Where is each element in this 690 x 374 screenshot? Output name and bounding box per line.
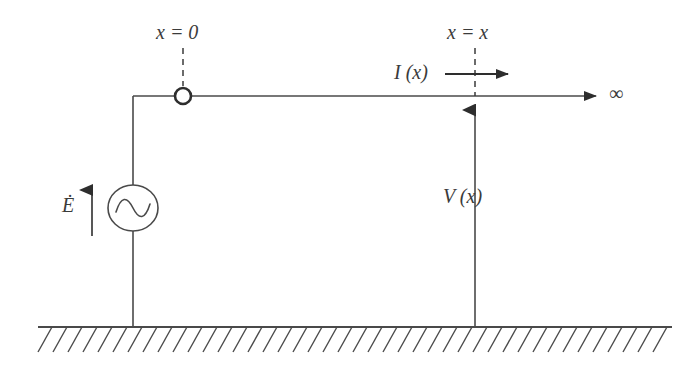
diagram-canvas <box>0 0 690 374</box>
transmission-line-diagram: x = 0 x = x I (x) V (x) Ė ∞ <box>0 0 690 374</box>
current-label: I (x) <box>394 62 428 82</box>
infinity-label: ∞ <box>609 83 623 103</box>
origin-label: x = 0 <box>156 22 198 42</box>
open-circle-terminal-icon <box>175 88 191 104</box>
voltage-label: V (x) <box>443 186 482 206</box>
measurement-point-label: x = x <box>447 22 488 42</box>
emf-label: Ė <box>62 195 74 215</box>
ac-source-icon <box>108 185 158 231</box>
ground-hatching-icon <box>38 327 672 352</box>
